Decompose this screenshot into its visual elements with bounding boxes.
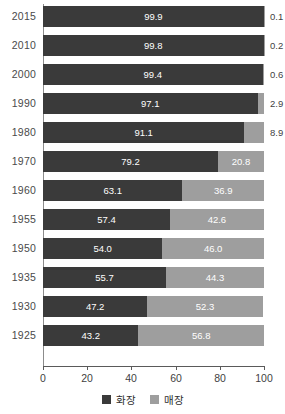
stacked-bar: 91.1 — [43, 122, 264, 143]
bar-segment-cremation: 55.7 — [43, 267, 166, 288]
legend-item: 매장 — [150, 392, 184, 407]
stacked-bar: 97.1 — [43, 93, 264, 114]
legend-swatch-icon — [102, 395, 111, 404]
chart-row: 200099.40.6 — [0, 64, 285, 93]
x-axis-tick-label: 20 — [81, 372, 93, 384]
y-axis-category-label: 2015 — [0, 6, 36, 27]
chart-row: 198091.18.9 — [0, 122, 285, 151]
bar-value-label-outside: 2.9 — [270, 93, 283, 114]
chart-row: 192543.256.8 — [0, 325, 285, 354]
x-axis-tick-label: 80 — [214, 372, 226, 384]
bar-value-label-outside: 8.9 — [270, 122, 283, 143]
y-axis-category-label: 2000 — [0, 64, 36, 85]
stacked-bar: 57.442.6 — [43, 209, 264, 230]
bar-segment-cremation: 63.1 — [43, 180, 182, 201]
bar-segment-cremation: 57.4 — [43, 209, 170, 230]
y-axis-category-label: 1960 — [0, 180, 36, 201]
bar-value-label-outside: 0.6 — [270, 64, 283, 85]
x-axis-tick-label: 0 — [40, 372, 46, 384]
chart-row: 193555.744.3 — [0, 267, 285, 296]
y-axis-category-label: 1925 — [0, 325, 36, 346]
y-axis-category-label: 1990 — [0, 93, 36, 114]
chart-row: 195054.046.0 — [0, 238, 285, 267]
y-axis-category-label: 1930 — [0, 296, 36, 317]
x-axis-tick — [220, 366, 221, 370]
stacked-bar: 47.252.3 — [43, 296, 264, 317]
x-axis-tick-label: 60 — [170, 372, 182, 384]
y-axis-category-label: 2010 — [0, 35, 36, 56]
legend-label: 매장 — [164, 392, 184, 407]
bar-value-label-outside: 0.2 — [270, 35, 283, 56]
chart-row: 201099.80.2 — [0, 35, 285, 64]
chart-row: 197079.220.8 — [0, 151, 285, 180]
chart-legend: 화장매장 — [0, 392, 285, 407]
bar-segment-cremation: 91.1 — [43, 122, 244, 143]
chart-row: 196063.136.9 — [0, 180, 285, 209]
legend-item: 화장 — [102, 392, 136, 407]
bar-segment-cremation: 47.2 — [43, 296, 147, 317]
y-axis-category-label: 1980 — [0, 122, 36, 143]
chart-row: 193047.252.3 — [0, 296, 285, 325]
chart-row: 201599.90.1 — [0, 6, 285, 35]
x-axis-tick-label: 40 — [125, 372, 137, 384]
stacked-bar: 99.9 — [43, 6, 264, 27]
bar-segment-cremation: 99.8 — [43, 35, 264, 56]
bar-segment-cremation: 99.4 — [43, 64, 263, 85]
stacked-bar: 63.136.9 — [43, 180, 264, 201]
bar-segment-cremation: 79.2 — [43, 151, 218, 172]
bar-segment-burial — [258, 93, 264, 114]
x-axis-tick — [87, 366, 88, 370]
stacked-bar: 55.744.3 — [43, 267, 264, 288]
x-axis-tick-label: 100 — [255, 372, 273, 384]
x-axis-tick — [131, 366, 132, 370]
chart-row: 195557.442.6 — [0, 209, 285, 238]
y-axis-category-label: 1970 — [0, 151, 36, 172]
chart-rows: 201599.90.1201099.80.2200099.40.6199097.… — [0, 6, 285, 354]
stacked-bar: 79.220.8 — [43, 151, 264, 172]
bar-segment-cremation: 54.0 — [43, 238, 162, 259]
x-axis-tick — [43, 366, 44, 370]
x-axis-tick — [176, 366, 177, 370]
bar-segment-burial — [244, 122, 264, 143]
bar-segment-burial: 52.3 — [147, 296, 263, 317]
bar-segment-burial: 36.9 — [182, 180, 264, 201]
stacked-bar: 43.256.8 — [43, 325, 264, 346]
legend-label: 화장 — [116, 392, 136, 407]
bar-segment-burial: 20.8 — [218, 151, 264, 172]
legend-swatch-icon — [150, 395, 159, 404]
stacked-bar: 99.8 — [43, 35, 264, 56]
bar-segment-burial — [263, 64, 264, 85]
x-axis-tick — [264, 366, 265, 370]
y-axis-category-label: 1950 — [0, 238, 36, 259]
stacked-bar: 99.4 — [43, 64, 264, 85]
stacked-bar: 54.046.0 — [43, 238, 264, 259]
bar-segment-burial: 42.6 — [170, 209, 264, 230]
bar-segment-burial: 56.8 — [138, 325, 264, 346]
bar-segment-burial: 46.0 — [162, 238, 264, 259]
y-axis-category-label: 1955 — [0, 209, 36, 230]
bar-segment-cremation: 99.9 — [43, 6, 264, 27]
bar-segment-burial: 44.3 — [166, 267, 264, 288]
x-axis-line — [43, 366, 264, 367]
y-axis-category-label: 1935 — [0, 267, 36, 288]
chart-row: 199097.12.9 — [0, 93, 285, 122]
bar-segment-cremation: 43.2 — [43, 325, 138, 346]
bar-segment-cremation: 97.1 — [43, 93, 258, 114]
bar-value-label-outside: 0.1 — [270, 6, 283, 27]
stacked-bar-chart: 201599.90.1201099.80.2200099.40.6199097.… — [0, 0, 285, 414]
